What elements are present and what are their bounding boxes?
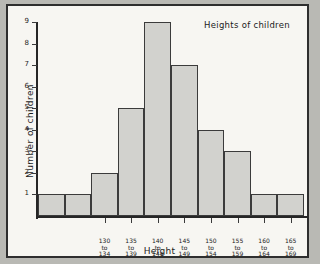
x-tick [291, 218, 292, 223]
plot-area: 123456789 130 to 134135 to 139140 to 144… [36, 22, 308, 218]
y-tick-label: 1 [25, 188, 29, 198]
histogram-bar [65, 194, 92, 216]
y-tick-label: 2 [25, 167, 29, 177]
y-tick-label: 6 [25, 81, 29, 91]
y-tick-label: 9 [25, 16, 29, 26]
y-tick: 2 [32, 173, 37, 174]
histogram-bar [118, 108, 145, 216]
y-tick: 6 [32, 87, 37, 88]
x-tick [105, 218, 106, 223]
y-tick: 1 [32, 194, 37, 195]
histogram-bar [277, 194, 304, 216]
histogram-bar [144, 22, 171, 216]
x-axis-line [36, 216, 308, 218]
histogram-bar [224, 151, 251, 216]
y-tick-label: 7 [25, 59, 29, 69]
y-tick-label: 3 [25, 145, 29, 155]
histogram-bar [171, 65, 198, 216]
histogram-bar [91, 173, 118, 216]
y-tick: 8 [32, 44, 37, 45]
x-tick [131, 218, 132, 223]
x-tick-label: 165 to 169 [275, 238, 306, 258]
histogram-bar [38, 194, 65, 216]
x-tick [158, 218, 159, 223]
y-tick-label: 5 [25, 102, 29, 112]
y-tick: 7 [32, 65, 37, 66]
y-tick: 4 [32, 130, 37, 131]
chart-sheet: Heights of children Number of children H… [6, 4, 309, 258]
x-tick [264, 218, 265, 223]
x-tick [184, 218, 185, 223]
x-tick [238, 218, 239, 223]
y-tick: 5 [32, 108, 37, 109]
histogram-bar [251, 194, 278, 216]
y-tick: 3 [32, 151, 37, 152]
y-tick-label: 8 [25, 38, 29, 48]
y-tick-label: 4 [25, 124, 29, 134]
y-tick: 9 [32, 22, 37, 23]
y-axis-line [36, 22, 38, 219]
x-tick [211, 218, 212, 223]
figure-page: Heights of children Number of children H… [0, 0, 320, 264]
histogram-bar [198, 130, 225, 216]
